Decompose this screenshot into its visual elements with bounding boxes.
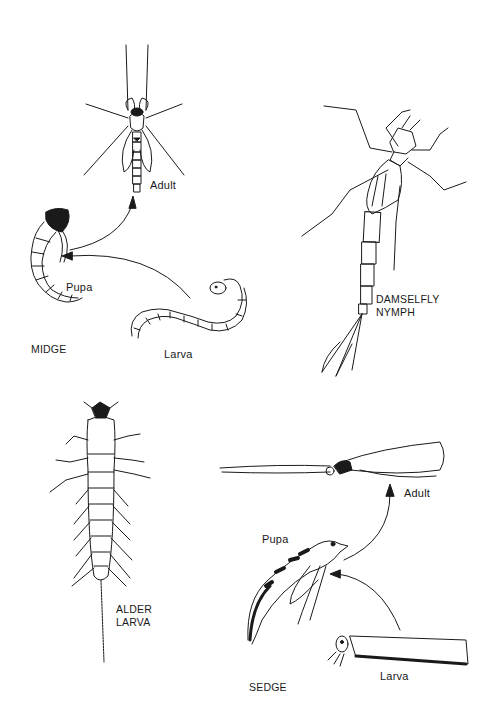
sedge-larva-label: Larva xyxy=(380,670,409,683)
midge-adult-drawing xyxy=(84,45,184,192)
damselfly-nymph-drawing xyxy=(302,106,466,376)
damselfly-title-line1: DAMSELFLY xyxy=(376,293,439,306)
midge-pupa-label: Pupa xyxy=(66,281,93,294)
sedge-adult-label: Adult xyxy=(404,487,430,500)
damselfly-title-line2: NYMPH xyxy=(376,306,415,319)
midge-adult-label: Adult xyxy=(150,179,176,192)
midge-larva-drawing xyxy=(131,279,246,338)
sedge-adult-drawing xyxy=(220,442,444,477)
sedge-larva-drawing xyxy=(328,636,468,666)
sedge-title-label: SEDGE xyxy=(249,681,287,694)
sedge-arrows xyxy=(330,484,400,630)
midge-larva-label: Larva xyxy=(164,348,193,361)
sedge-pupa-drawing xyxy=(248,541,348,644)
alder-title-line1: ALDER xyxy=(116,603,152,616)
sedge-pupa-label: Pupa xyxy=(262,533,289,546)
midge-title-label: MIDGE xyxy=(31,343,66,356)
illustration-canvas xyxy=(0,0,497,723)
alder-title-line2: LARVA xyxy=(116,616,150,629)
